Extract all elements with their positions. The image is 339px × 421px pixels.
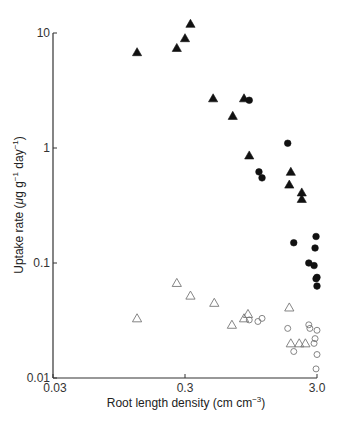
open-triangle-marker [210, 298, 219, 306]
open-triangle-marker [172, 278, 181, 286]
filled-circle-marker [312, 245, 319, 252]
filled-circle-marker [256, 169, 263, 176]
filled-circle-marker [290, 239, 297, 246]
series-open-triangles [132, 278, 310, 346]
filled-triangle-marker [180, 34, 189, 42]
open-triangle-marker [132, 314, 141, 322]
filled-triangle-marker [285, 180, 294, 188]
open-circle-marker [291, 348, 297, 354]
filled-triangle-marker [245, 151, 254, 159]
filled-triangle-marker [132, 48, 141, 56]
open-triangle-marker [286, 339, 295, 347]
filled-circle-marker [313, 275, 320, 282]
open-triangle-marker [295, 339, 304, 347]
open-triangle-marker [186, 291, 195, 299]
x-tick-label: 0.03 [43, 381, 67, 395]
x-ticks: 0.030.33.0 [43, 374, 325, 395]
y-tick-label: 10 [37, 26, 51, 40]
filled-circle-marker [259, 175, 266, 182]
series-filled-circles [246, 97, 320, 289]
filled-circle-marker [314, 283, 321, 290]
open-circle-marker [259, 315, 265, 321]
y-tick-label: 0.1 [33, 256, 50, 270]
open-circle-marker [285, 325, 291, 331]
open-triangle-marker [227, 320, 236, 328]
open-circle-marker [314, 327, 320, 333]
filled-circle-marker [313, 233, 320, 240]
x-axis-title: Root length density (cm cm−3) [107, 395, 266, 410]
series-filled-triangles [132, 19, 306, 202]
open-circle-marker [255, 318, 261, 324]
filled-circle-marker [311, 262, 318, 269]
filled-triangle-marker [286, 167, 295, 175]
axes: 0.010.1110 0.030.33.0 [27, 26, 326, 395]
filled-circle-marker [284, 140, 291, 147]
open-triangle-marker [285, 303, 294, 311]
y-axis-title: Uptake rate (μg g−1 day−1) [11, 136, 26, 274]
filled-triangle-marker [209, 94, 218, 102]
x-tick-label: 3.0 [309, 381, 326, 395]
open-triangle-marker [243, 309, 252, 317]
scatter-chart: 0.010.1110 0.030.33.0 Root length densit… [0, 0, 339, 421]
open-circle-marker [306, 322, 312, 328]
filled-triangle-marker [186, 19, 195, 27]
y-tick-label: 1 [43, 141, 50, 155]
series-open-circles [246, 315, 320, 372]
x-tick-label: 0.3 [177, 381, 194, 395]
open-triangle-marker [301, 339, 310, 347]
data-points [132, 19, 320, 372]
filled-triangle-marker [172, 43, 181, 51]
open-circle-marker [313, 366, 319, 372]
filled-circle-marker [246, 97, 253, 104]
filled-triangle-marker [228, 111, 237, 119]
open-circle-marker [307, 325, 313, 331]
open-circle-marker [314, 352, 320, 358]
